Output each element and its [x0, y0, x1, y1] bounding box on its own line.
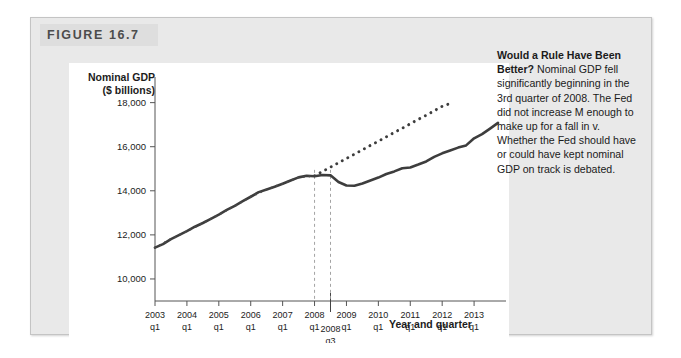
- x-tick-year-label: 2008: [305, 310, 325, 320]
- x-tick-year-label: 2004: [177, 310, 197, 320]
- x-tick-quarter-label: q1: [278, 322, 288, 332]
- figure-caption: Would a Rule Have Been Better? Nominal G…: [497, 48, 641, 176]
- x-tick-year-label: 2009: [336, 310, 356, 320]
- figure-root: FIGURE 16.7 Nominal GDP ($ billions) 10,…: [0, 0, 681, 358]
- x-tick-year-label: 2006: [241, 310, 261, 320]
- x-tick-year-label: 2010: [368, 310, 388, 320]
- series-early-fitted-overlay: [155, 176, 315, 248]
- x-tick-quarter-label: q1: [214, 322, 224, 332]
- x-tick-quarter-label: q1: [310, 322, 320, 332]
- y-tick-label: 14,000: [117, 185, 146, 196]
- x-tick-quarter-label: q1: [373, 322, 383, 332]
- annotation-2008-line1: 2008: [320, 324, 340, 334]
- x-tick-quarter-label: q1: [150, 322, 160, 332]
- annotation-2008-line2: q3: [325, 336, 335, 343]
- x-tick-quarter-label: q1: [246, 322, 256, 332]
- x-tick-year-label: 2007: [273, 310, 293, 320]
- x-tick-quarter-label: q1: [341, 322, 351, 332]
- y-tick-label: 10,000: [117, 273, 146, 284]
- y-tick-label: 18,000: [117, 97, 146, 108]
- figure-number-label: FIGURE 16.7: [40, 28, 140, 42]
- figure-number-tag: FIGURE 16.7: [40, 24, 158, 46]
- x-axis-title: Year and quarter: [389, 318, 472, 330]
- nominal-gdp-line-chart: 10,00012,00014,00016,00018,0002003q12004…: [69, 63, 509, 343]
- y-tick-label: 12,000: [117, 229, 146, 240]
- chart-card: Nominal GDP ($ billions) 10,00012,00014,…: [69, 63, 509, 343]
- series-trend-rule-path: [315, 104, 451, 176]
- x-tick-year-label: 2003: [145, 310, 165, 320]
- x-tick-quarter-label: q1: [182, 322, 192, 332]
- y-tick-label: 16,000: [117, 141, 146, 152]
- caption-body: Nominal GDP fell significantly beginning…: [497, 63, 636, 174]
- series-actual-nominal-gdp: [155, 123, 498, 248]
- x-tick-year-label: 2005: [209, 310, 229, 320]
